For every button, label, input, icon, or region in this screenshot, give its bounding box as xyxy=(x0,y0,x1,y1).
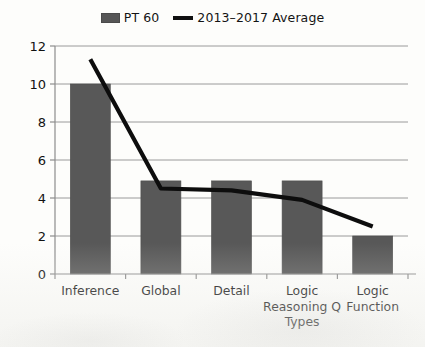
y-tick-label: 10 xyxy=(29,77,46,92)
x-axis-tick-labels: InferenceGlobalDetailLogicReasoning QTyp… xyxy=(61,283,399,329)
y-tick-label: 8 xyxy=(38,115,46,130)
legend-entry-average: 2013–2017 Average xyxy=(173,11,324,24)
y-tick-marks xyxy=(50,46,55,274)
bar xyxy=(353,236,393,274)
chart-legend: PT 60 2013–2017 Average xyxy=(0,11,425,24)
x-tick-marks xyxy=(55,274,408,279)
bar-swatch-icon xyxy=(101,13,120,23)
legend-label-pt60: PT 60 xyxy=(124,11,160,24)
x-tick-label: Types xyxy=(284,314,320,329)
y-tick-label: 0 xyxy=(38,267,46,282)
x-tick-label: Logic xyxy=(357,283,390,298)
line-swatch-icon xyxy=(173,16,193,20)
bar xyxy=(282,181,322,274)
y-tick-label: 6 xyxy=(38,153,46,168)
x-tick-label: Logic xyxy=(286,283,319,298)
bar xyxy=(70,84,110,274)
legend-entry-pt60: PT 60 xyxy=(101,11,160,24)
legend-label-average: 2013–2017 Average xyxy=(197,11,324,24)
y-axis-tick-labels: 024681012 xyxy=(29,39,46,282)
x-tick-label: Detail xyxy=(213,283,250,298)
chart-svg: 024681012 InferenceGlobalDetailLogicReas… xyxy=(0,0,425,347)
x-tick-label: Reasoning Q xyxy=(263,299,341,314)
y-tick-label: 12 xyxy=(29,39,46,54)
bar xyxy=(141,181,181,274)
x-tick-label: Function xyxy=(346,299,399,314)
y-tick-label: 2 xyxy=(38,229,46,244)
x-tick-label: Inference xyxy=(61,283,119,298)
y-tick-label: 4 xyxy=(38,191,46,206)
bar xyxy=(212,181,252,274)
x-tick-label: Global xyxy=(141,283,181,298)
plot-area: 024681012 InferenceGlobalDetailLogicReas… xyxy=(0,0,425,347)
combo-chart: PT 60 2013–2017 Average 024681012 Infere… xyxy=(0,0,425,347)
